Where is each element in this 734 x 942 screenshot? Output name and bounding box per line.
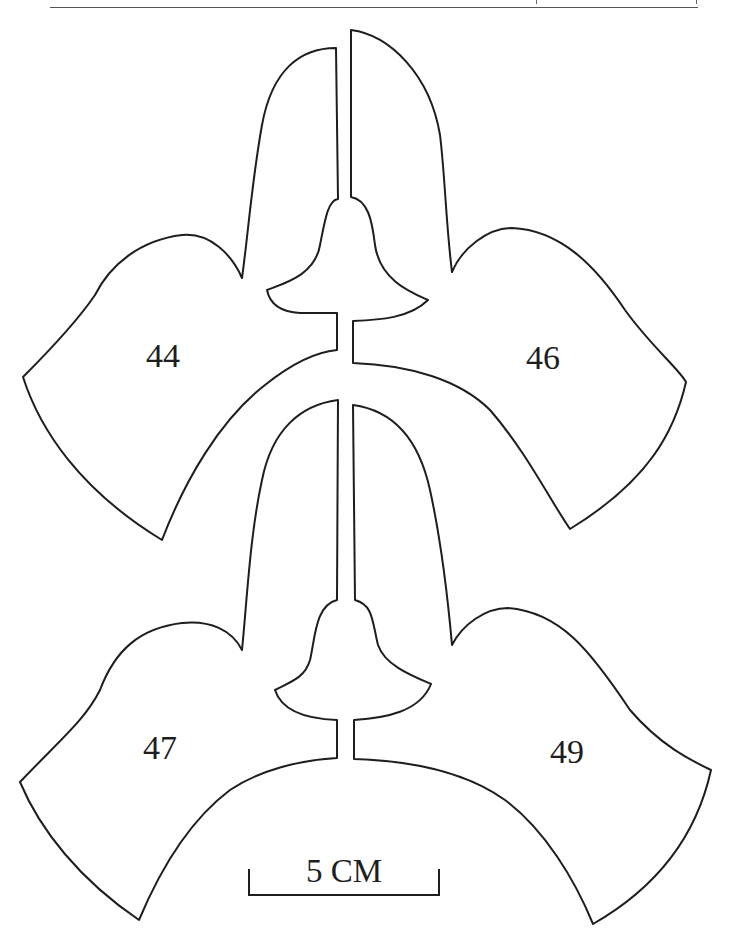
piece-49-outline	[353, 405, 711, 924]
outline-drawing	[0, 0, 734, 942]
piece-label-46: 46	[526, 341, 560, 375]
piece-label-49: 49	[550, 735, 584, 769]
piece-46-outline	[351, 30, 686, 529]
piece-44-outline	[23, 48, 338, 540]
scale-bar-label: 5 CM	[306, 855, 382, 888]
figure-canvas: 44 46 47 49 5 CM	[0, 0, 734, 942]
piece-label-47: 47	[143, 731, 177, 765]
piece-label-44: 44	[146, 339, 180, 373]
piece-47-outline	[20, 400, 338, 920]
